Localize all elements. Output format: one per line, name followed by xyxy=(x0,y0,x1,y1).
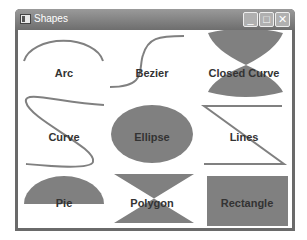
lines-label: Lines xyxy=(230,131,259,143)
pie-label: Pie xyxy=(56,197,73,209)
drawing-canvas: Arc Bezier Closed Curve Curve Ellipse Li… xyxy=(18,30,292,228)
bezier-shape xyxy=(110,36,184,87)
arc-shape xyxy=(24,41,103,61)
polygon-label: Polygon xyxy=(130,197,173,209)
arc-label: Arc xyxy=(55,67,73,79)
window-title: Shapes xyxy=(34,13,68,24)
minimize-button[interactable]: _ xyxy=(243,12,258,27)
curve-label: Curve xyxy=(48,131,79,143)
close-button[interactable]: ✕ xyxy=(275,12,290,27)
bezier-label: Bezier xyxy=(135,67,168,79)
shapes-window: Shapes _ □ ✕ Arc Bezier Closed Cur xyxy=(15,9,295,231)
closed-curve-label: Closed Curve xyxy=(209,67,280,79)
rectangle-label: Rectangle xyxy=(221,197,274,209)
ellipse-label: Ellipse xyxy=(134,131,169,143)
app-icon[interactable] xyxy=(20,14,31,24)
closed-curve-shape xyxy=(208,30,283,97)
maximize-button[interactable]: □ xyxy=(259,12,274,27)
title-bar[interactable]: Shapes _ □ ✕ xyxy=(15,9,295,30)
